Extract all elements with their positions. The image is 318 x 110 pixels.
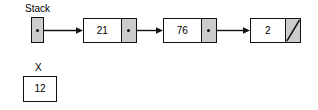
variable-x-label: X [35,62,42,73]
arrow-right-icon-node1-to-node2 [136,26,164,35]
node-value: 21 [84,19,121,42]
list-node-3: 2 [250,18,301,43]
list-node-1: 21 [83,18,137,43]
node-value: 2 [251,19,285,42]
node-pointer-cell [121,19,136,42]
node-pointer-cell [201,19,216,42]
list-node-2: 76 [163,18,217,43]
null-slash-icon [285,19,300,42]
node-value: 76 [164,19,201,42]
pointer-dot-icon [207,29,210,32]
variable-x-value-box: 12 [23,76,57,102]
arrow-right-icon-node2-to-node3 [216,26,251,35]
stack-linked-list-diagram: Stack 21 76 2 [0,0,318,110]
pointer-dot-icon [127,29,130,32]
pointer-dot-icon [36,29,39,32]
stack-label: Stack [25,3,50,14]
arrow-right-icon-stack-to-node1 [43,26,84,35]
